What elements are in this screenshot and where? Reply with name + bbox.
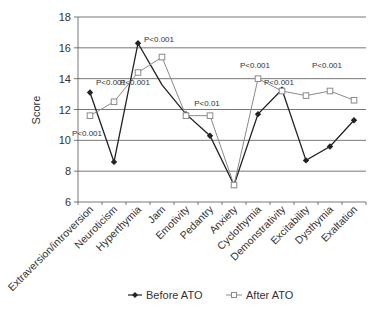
y-tick-label: 8	[65, 165, 71, 177]
square-marker-icon	[327, 88, 333, 94]
p-value-label: P<0.001	[144, 35, 175, 44]
diamond-marker-icon	[132, 292, 138, 298]
y-axis: 681012141618	[59, 11, 78, 208]
square-marker-icon	[135, 70, 141, 76]
y-tick-label: 12	[59, 104, 71, 116]
p-value-annotations: P<0.001P<0.001P<0.001P<0.001P<0.01P<0.00…	[72, 35, 343, 138]
square-marker-icon	[303, 93, 309, 99]
square-marker-icon	[351, 97, 357, 103]
square-marker-icon	[255, 76, 261, 82]
diamond-marker-icon	[87, 89, 93, 95]
legend-before-label: Before ATO	[146, 289, 203, 301]
legend-item-after: After ATO	[226, 289, 294, 301]
y-axis-label: Score	[30, 96, 42, 125]
p-value-label: P<0.001	[312, 61, 343, 70]
y-tick-label: 18	[59, 11, 71, 23]
gridlines	[78, 17, 366, 171]
y-tick-label: 10	[59, 134, 71, 146]
square-marker-icon	[231, 182, 237, 188]
p-value-label: P<0.01	[194, 99, 220, 108]
x-axis: Extraversion/introversionNeuroticismHype…	[5, 202, 366, 293]
square-marker-icon	[87, 113, 93, 119]
y-tick-label: 16	[59, 42, 71, 54]
line-chart: 681012141618 Extraversion/introversionNe…	[0, 0, 380, 309]
square-marker-icon	[207, 113, 213, 119]
legend-after-label: After ATO	[246, 289, 294, 301]
series-line	[90, 57, 354, 185]
diamond-marker-icon	[111, 159, 117, 165]
square-marker-icon	[159, 54, 165, 60]
legend: Before ATO After ATO	[128, 289, 294, 301]
p-value-label: P<0.001	[120, 78, 151, 87]
p-value-label: P<0.001	[72, 129, 103, 138]
square-marker-icon	[279, 88, 285, 94]
square-marker-icon	[183, 113, 189, 119]
square-marker-icon	[111, 99, 117, 105]
y-tick-label: 14	[59, 73, 71, 85]
y-tick-label: 6	[65, 196, 71, 208]
diamond-marker-icon	[303, 157, 309, 163]
diamond-marker-icon	[135, 40, 141, 46]
p-value-label: P<0.001	[240, 61, 271, 70]
p-value-label: P<0.001	[264, 78, 295, 87]
square-marker-icon	[232, 293, 237, 298]
legend-item-before: Before ATO	[128, 289, 203, 301]
